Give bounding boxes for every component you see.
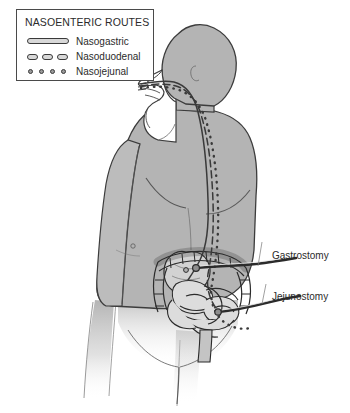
gastrostomy-balloon — [184, 268, 189, 273]
mouth-line — [145, 95, 160, 100]
legend-label-nasojejunal: Nasojejunal — [73, 66, 128, 77]
gastrostomy-stoma — [193, 265, 200, 272]
nasoenteric-routes-figure: NASOENTERIC ROUTES Nasogastric Nasoduode… — [0, 0, 350, 413]
legend-item-nasogastric: Nasogastric — [25, 34, 149, 49]
legend-label-nasoduodenal: Nasoduodenal — [73, 51, 141, 62]
solid-tube-icon — [25, 34, 73, 49]
dotted-tube-icon — [25, 64, 73, 79]
legend-item-nasojejunal: Nasojejunal — [25, 64, 149, 79]
callout-label-gastrostomy: Gastrostomy — [272, 250, 329, 261]
callout-label-jejunostomy: Jejunostomy — [272, 291, 328, 302]
legend-title: NASOENTERIC ROUTES — [25, 16, 149, 28]
jejunostomy-leader — [262, 284, 266, 304]
legend-label-nasogastric: Nasogastric — [73, 36, 129, 47]
legend-item-nasoduodenal: Nasoduodenal — [25, 49, 149, 64]
legend-rows: Nasogastric Nasoduodenal Nasojejunal — [25, 34, 149, 79]
jejunostomy-stoma — [215, 309, 221, 315]
legend-box: NASOENTERIC ROUTES Nasogastric Nasoduode… — [16, 9, 154, 81]
head — [162, 25, 236, 106]
dashed-tube-icon — [25, 49, 73, 64]
rectum — [198, 330, 212, 362]
